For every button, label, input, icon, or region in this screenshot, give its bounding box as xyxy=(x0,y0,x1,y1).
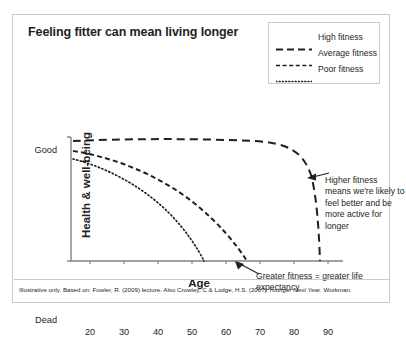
x-tick-label-40: 40 xyxy=(145,327,171,337)
y-axis-label: Health & well-being xyxy=(80,120,92,250)
legend-label-average-fitness: Average fitness xyxy=(318,48,377,58)
footnote-part1: Illustrative only. Based on: Fowler, R. … xyxy=(19,286,268,293)
figure-card: Feeling fitter can mean living longer Hi… xyxy=(12,14,390,303)
x-tick-label-70: 70 xyxy=(247,327,273,337)
x-tick-label-90: 90 xyxy=(315,327,341,337)
footnote-book-title: Younger Next Year. xyxy=(268,286,321,293)
x-tick-label-20: 20 xyxy=(77,327,103,337)
x-tick-label-60: 60 xyxy=(213,327,239,337)
legend-swatch-poor-fitness xyxy=(276,69,312,70)
legend-swatch-average-fitness xyxy=(276,53,312,54)
annotation-right: Higher fitness means we're likely to fee… xyxy=(325,175,405,232)
series-high-fitness xyxy=(73,139,320,261)
legend-swatch-high-fitness xyxy=(276,37,312,38)
y-tick-label-dead: Dead xyxy=(25,315,57,325)
page-title: Feeling fitter can mean living longer xyxy=(28,25,238,39)
x-tick-label-30: 30 xyxy=(111,327,137,337)
legend-label-poor-fitness: Poor fitness xyxy=(318,64,363,74)
y-tick-label-good: Good xyxy=(25,145,57,155)
series-poor-fitness xyxy=(73,159,204,261)
footnote-divider xyxy=(14,279,390,280)
x-tick-label-50: 50 xyxy=(179,327,205,337)
x-tick-label-80: 80 xyxy=(281,327,307,337)
legend-item-high-fitness: High fitness xyxy=(276,29,373,45)
footnote: Illustrative only. Based on: Fowler, R. … xyxy=(19,285,385,294)
plot-area: Good Dead Health & well-being 20 30 40 5… xyxy=(59,79,339,261)
chart-legend: High fitness Average fitness Poor fitnes… xyxy=(268,22,380,84)
footnote-part2: Workman. xyxy=(322,286,352,293)
legend-label-high-fitness: High fitness xyxy=(318,32,363,42)
